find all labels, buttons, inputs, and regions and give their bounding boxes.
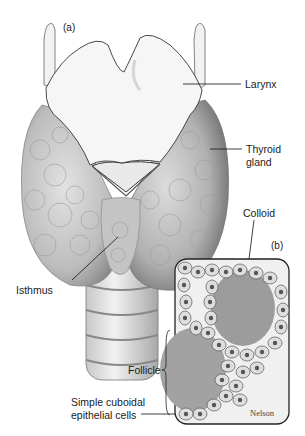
thyroid-anatomy-figure: (a) (b) Larynx Thyroid gland Isthmus Col… [0, 0, 305, 436]
histology-panel [160, 259, 289, 424]
artist-signature: Nelson [250, 408, 274, 418]
colloid-label: Colloid [243, 207, 275, 219]
panel-a-label: (a) [63, 22, 75, 34]
thyroid-gland-label-line1: Thyroid [246, 143, 281, 155]
isthmus-label: Isthmus [16, 284, 53, 296]
larynx-label: Larynx [245, 78, 277, 90]
panel-b-label: (b) [271, 240, 283, 252]
thyroid-gland-label-line2: gland [246, 156, 272, 168]
epithelial-cells-label-line1: Simple cuboidal [71, 396, 145, 408]
epithelial-cells-label-line2: epithelial cells [71, 409, 136, 421]
follicle-label: Follicle [128, 364, 161, 376]
